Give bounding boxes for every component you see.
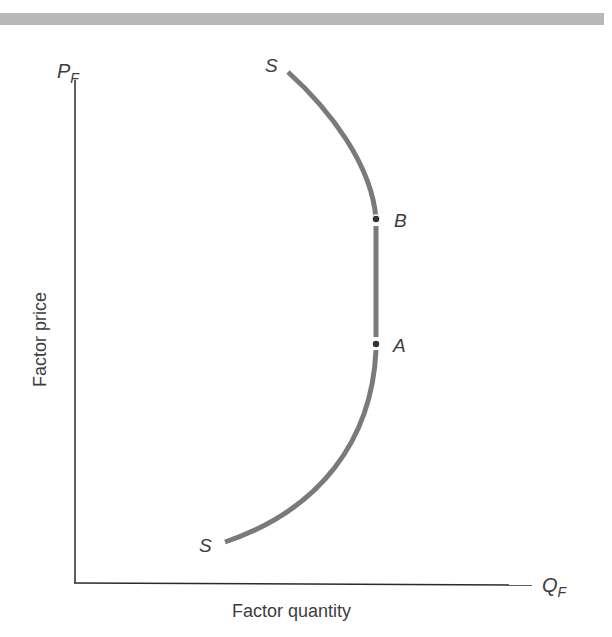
y-axis-symbol: PF [57, 60, 80, 86]
supply-curve-upper [288, 72, 376, 219]
point-a-dot [372, 340, 380, 348]
x-axis-symbol: QF [542, 574, 568, 600]
x-axis-label: Factor quantity [232, 601, 351, 621]
supply-curve-diagram: PF QF Factor price Factor quantity S S B… [0, 0, 612, 637]
x-axis [74, 583, 532, 585]
y-axis-label: Factor price [30, 292, 50, 387]
point-b-dot [372, 215, 380, 223]
curve-label-bottom: S [199, 535, 212, 556]
point-b-label: B [394, 210, 407, 231]
curve-label-top: S [265, 55, 278, 76]
supply-curve-lower [225, 350, 376, 542]
point-a-label: A [392, 335, 406, 356]
